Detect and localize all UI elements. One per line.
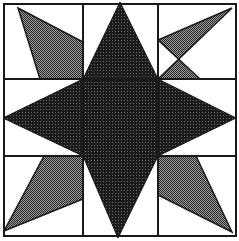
quilt-block-svg bbox=[0, 0, 239, 241]
quilt-block-diagram: Star quilt block bbox=[0, 0, 239, 241]
